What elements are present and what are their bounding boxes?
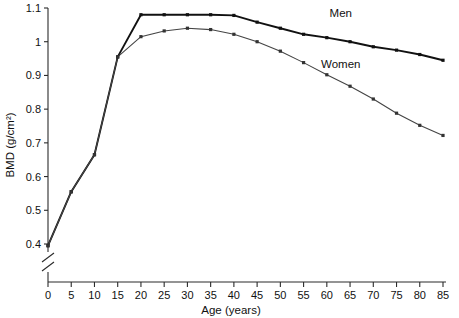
series-label-men: Men bbox=[330, 7, 352, 19]
x-tick-label: 10 bbox=[88, 289, 100, 301]
data-point-women bbox=[139, 35, 142, 38]
y-tick-label: 0.4 bbox=[26, 238, 41, 250]
x-tick-label: 50 bbox=[274, 289, 286, 301]
data-series-group bbox=[48, 15, 443, 246]
y-tick-label: 0.8 bbox=[26, 103, 41, 115]
data-point-women bbox=[395, 112, 398, 115]
x-tick-label: 35 bbox=[205, 289, 217, 301]
bmd-age-line-chart: 0.40.50.60.70.80.911.1051015202530354045… bbox=[0, 0, 459, 318]
data-point-men bbox=[186, 13, 189, 16]
x-tick-label: 20 bbox=[135, 289, 147, 301]
x-tick-label: 25 bbox=[158, 289, 170, 301]
y-tick-label: 1 bbox=[35, 36, 41, 48]
data-point-women bbox=[209, 28, 212, 31]
data-point-women bbox=[279, 50, 282, 53]
y-axis-break-mark-1 bbox=[42, 253, 54, 262]
x-tick-label: 0 bbox=[45, 289, 51, 301]
x-tick-label: 55 bbox=[297, 289, 309, 301]
x-tick-label: 70 bbox=[367, 289, 379, 301]
x-tick-label: 5 bbox=[68, 289, 74, 301]
data-point-men bbox=[139, 13, 142, 16]
y-tick-label: 1.1 bbox=[26, 2, 41, 14]
series-label-women: Women bbox=[321, 58, 360, 70]
data-point-men bbox=[302, 33, 305, 36]
data-point-women bbox=[325, 73, 328, 76]
y-tick-label: 0.7 bbox=[26, 137, 41, 149]
data-point-women bbox=[70, 190, 73, 193]
data-point-women bbox=[418, 124, 421, 127]
x-tick-label: 80 bbox=[414, 289, 426, 301]
x-tick-label: 65 bbox=[344, 289, 356, 301]
x-tick-label: 15 bbox=[112, 289, 124, 301]
y-axis-break-mark-2 bbox=[42, 262, 54, 271]
data-point-men bbox=[232, 14, 235, 17]
x-tick-label: 75 bbox=[390, 289, 402, 301]
x-axis-title: Age (years) bbox=[201, 304, 261, 316]
data-point-men bbox=[325, 36, 328, 39]
data-point-men bbox=[209, 13, 212, 16]
data-point-women bbox=[163, 29, 166, 32]
x-tick-label: 40 bbox=[228, 289, 240, 301]
y-tick-label: 0.9 bbox=[26, 69, 41, 81]
data-point-men bbox=[163, 13, 166, 16]
y-tick-label: 0.6 bbox=[26, 171, 41, 183]
data-point-men bbox=[348, 40, 351, 43]
data-point-women bbox=[93, 153, 96, 156]
data-point-men bbox=[279, 27, 282, 30]
data-point-women bbox=[441, 134, 444, 137]
tick-labels-group: 0.40.50.60.70.80.911.1051015202530354045… bbox=[26, 2, 449, 301]
y-axis-title: BMD (g/cm²) bbox=[4, 112, 16, 177]
data-point-men bbox=[395, 49, 398, 52]
chart-svg: 0.40.50.60.70.80.911.1051015202530354045… bbox=[0, 0, 459, 318]
y-tick-label: 0.5 bbox=[26, 204, 41, 216]
data-point-women bbox=[372, 97, 375, 100]
data-point-women bbox=[46, 244, 49, 247]
data-point-women bbox=[186, 27, 189, 30]
x-tick-label: 30 bbox=[181, 289, 193, 301]
data-point-men bbox=[418, 53, 421, 56]
x-tick-label: 60 bbox=[321, 289, 333, 301]
series-line-men bbox=[48, 15, 443, 246]
data-point-men bbox=[441, 59, 444, 62]
series-line-women bbox=[48, 28, 443, 245]
data-point-men bbox=[372, 45, 375, 48]
data-point-men bbox=[256, 21, 259, 24]
x-tick-label: 85 bbox=[437, 289, 449, 301]
data-point-women bbox=[232, 33, 235, 36]
data-point-women bbox=[348, 85, 351, 88]
x-tick-label: 45 bbox=[251, 289, 263, 301]
data-point-women bbox=[302, 61, 305, 64]
tick-marks-group bbox=[44, 8, 443, 287]
data-point-women bbox=[116, 55, 119, 58]
data-point-women bbox=[256, 40, 259, 43]
